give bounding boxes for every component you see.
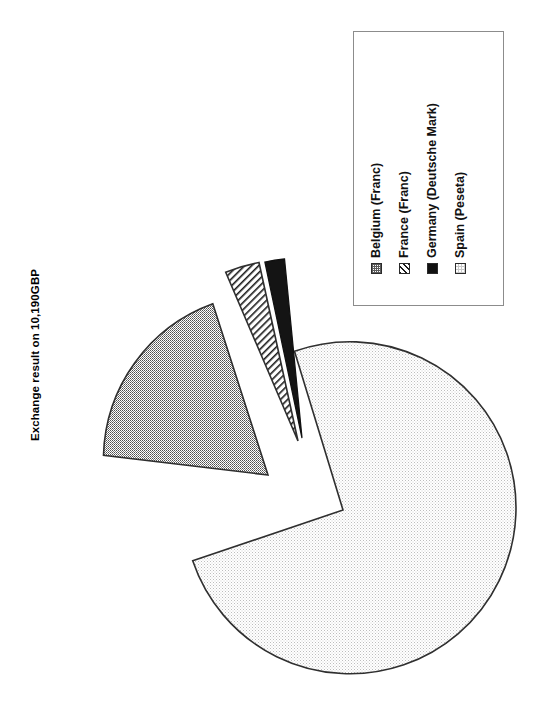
legend-label-belgium: Belgium (Franc) (370, 163, 383, 258)
legend-item-belgium[interactable]: Belgium (Franc) (365, 163, 387, 274)
legend-item-france[interactable]: France (Franc) (393, 171, 415, 274)
legend-item-germany[interactable]: Germany (Deutsche Mark) (421, 103, 443, 274)
pie-chart-figure: Exchange result on 10,190GBP (0, 0, 537, 713)
legend-label-france: France (Franc) (398, 171, 411, 258)
legend-swatch-spain-icon (455, 263, 466, 274)
legend-item-spain[interactable]: Spain (Peseta) (449, 172, 471, 274)
legend-label-spain: Spain (Peseta) (454, 172, 467, 258)
pie-slice-belgium (104, 304, 269, 475)
legend-label-germany: Germany (Deutsche Mark) (426, 103, 439, 258)
legend: Belgium (Franc) France (Franc) Germany (… (353, 31, 504, 306)
legend-swatch-belgium-icon (371, 263, 382, 274)
legend-swatch-france-icon (399, 263, 410, 274)
legend-items: Belgium (Franc) France (Franc) Germany (… (354, 32, 505, 307)
legend-swatch-germany-icon (427, 263, 438, 274)
